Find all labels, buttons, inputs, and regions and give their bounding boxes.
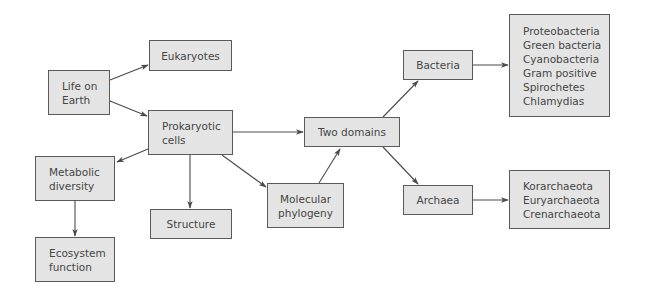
node-label-line: Metabolic — [49, 165, 100, 179]
node-two-domains: Two domains — [304, 117, 400, 147]
group-item: Spirochetes — [523, 80, 585, 94]
arrow-prokaryotic-to-metabolic — [117, 149, 148, 162]
arrow-life-to-eukaryotes — [110, 65, 148, 80]
node-structure: Structure — [150, 209, 232, 239]
group-item: Crenarchaeota — [523, 207, 600, 221]
node-eukaryotes: Eukaryotes — [149, 40, 232, 71]
node-label-line: Structure — [167, 217, 216, 231]
arrow-two-domains-to-archaea — [383, 147, 418, 184]
node-metabolic-diversity: Metabolic diversity — [35, 156, 115, 201]
concept-map-diagram: Life on Earth Eukaryotes Prokaryotic cel… — [0, 0, 649, 295]
node-life-on-earth: Life on Earth — [48, 70, 110, 115]
node-label-line: Ecosystem — [49, 246, 106, 260]
node-label-line: diversity — [49, 179, 94, 193]
group-item: Cyanobacteria — [523, 52, 599, 66]
node-label-line: Life on — [62, 79, 97, 93]
node-prokaryotic-cells: Prokaryotic cells — [148, 110, 233, 155]
node-label-line: Bacteria — [416, 58, 460, 72]
node-label-line: Prokaryotic — [162, 119, 221, 133]
node-molecular-phylogeny: Molecular phylogeny — [267, 183, 344, 228]
group-item: Proteobacteria — [523, 24, 600, 38]
group-item: Chlamydias — [523, 94, 584, 108]
arrow-prokaryotic-to-phylogeny — [222, 155, 266, 187]
node-label-line: Eukaryotes — [161, 49, 220, 63]
node-label-line: Molecular — [280, 192, 331, 206]
node-bacteria-groups: Proteobacteria Green bacteria Cyanobacte… — [509, 14, 610, 117]
node-label-line: cells — [162, 133, 186, 147]
node-bacteria: Bacteria — [403, 50, 473, 80]
node-archaea-groups: Korarchaeota Euryarchaeota Crenarchaeota — [509, 170, 610, 229]
arrow-two-domains-to-bacteria — [383, 81, 418, 117]
group-item: Gram positive — [523, 66, 597, 80]
node-label-line: phylogeny — [278, 206, 333, 220]
node-label-line: Archaea — [416, 193, 459, 207]
node-label-line: function — [49, 260, 92, 274]
node-label-line: Two domains — [318, 125, 386, 139]
group-item: Green bacteria — [523, 38, 601, 52]
group-item: Korarchaeota — [523, 179, 593, 193]
node-archaea: Archaea — [403, 185, 473, 215]
group-item: Euryarchaeota — [523, 193, 600, 207]
node-label-line: Earth — [62, 93, 90, 107]
arrow-phylogeny-to-two-domains — [319, 149, 340, 183]
arrow-life-to-prokaryotic — [110, 101, 147, 116]
node-ecosystem-function: Ecosystem function — [35, 237, 115, 282]
